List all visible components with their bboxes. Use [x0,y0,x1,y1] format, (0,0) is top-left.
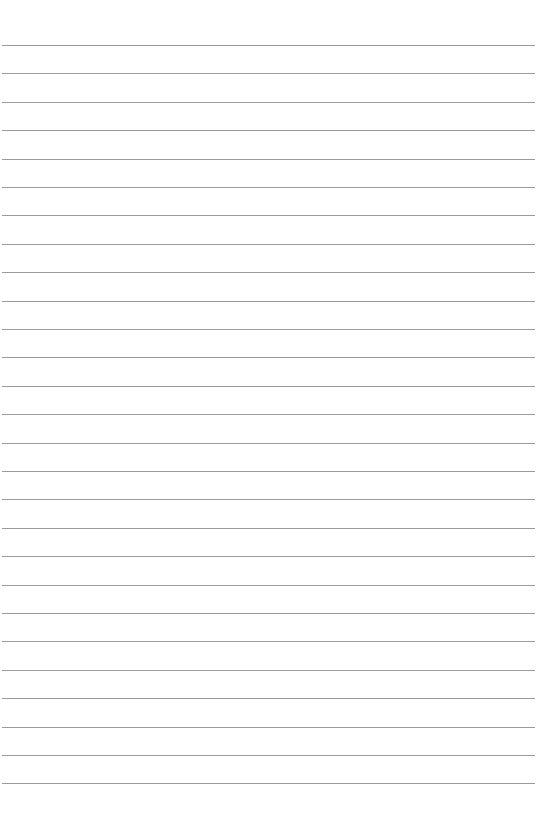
ruled-line [2,499,535,500]
ruled-line [2,386,535,387]
ruled-line [2,727,535,728]
ruled-line [2,272,535,273]
ruled-line [2,73,535,74]
ruled-line [2,755,535,756]
lined-paper-page [0,0,537,837]
ruled-line [2,528,535,529]
ruled-line [2,130,535,131]
ruled-line [2,357,535,358]
ruled-line [2,414,535,415]
ruled-line [2,556,535,557]
ruled-line [2,641,535,642]
ruled-line [2,783,535,784]
ruled-line [2,329,535,330]
ruled-line [2,585,535,586]
ruled-line [2,45,535,46]
ruled-line [2,698,535,699]
ruled-line [2,443,535,444]
ruled-line [2,102,535,103]
ruled-line [2,471,535,472]
ruled-line [2,670,535,671]
ruled-line [2,613,535,614]
ruled-line [2,159,535,160]
ruled-line [2,301,535,302]
ruled-line [2,187,535,188]
ruled-line [2,215,535,216]
ruled-line [2,244,535,245]
